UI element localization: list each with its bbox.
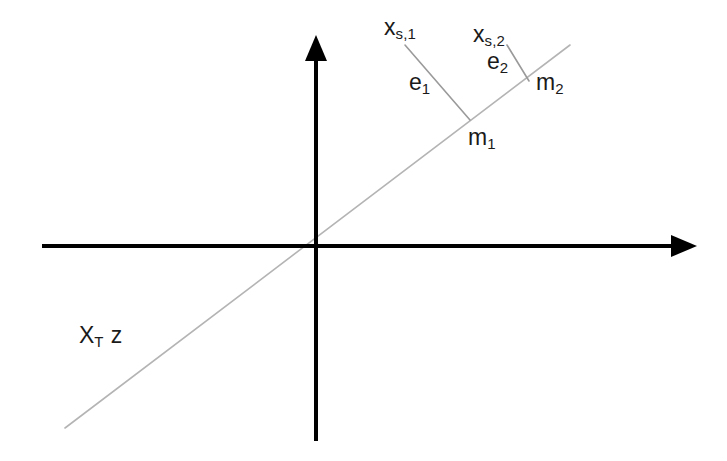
label-m2-base: m — [536, 69, 555, 95]
vertical-axis-arrowhead — [305, 35, 327, 61]
label-projection-foot-1: m1 — [468, 126, 496, 151]
label-e2-sub: 2 — [500, 59, 509, 76]
label-xtz-base1: X — [79, 322, 94, 348]
label-e2-base: e — [487, 48, 500, 74]
label-xs2-base: x — [473, 21, 485, 47]
label-source-point-1: xs,1 — [384, 16, 416, 41]
label-xs1-base: x — [384, 14, 396, 40]
label-m1-sub: 1 — [487, 135, 496, 152]
label-e1-sub: 1 — [422, 80, 431, 97]
residual-segment-e2 — [507, 45, 529, 81]
label-residual-2: e2 — [487, 50, 508, 75]
label-m2-sub: 2 — [555, 80, 564, 97]
label-xtz-sub1: T — [94, 333, 103, 350]
label-m1-base: m — [468, 124, 487, 150]
horizontal-axis-arrowhead — [671, 235, 697, 257]
label-source-point-2: xs,2 — [473, 23, 505, 48]
diagram-figure — [0, 0, 727, 461]
label-subspace-line: XTz — [79, 324, 122, 349]
label-residual-1: e1 — [409, 71, 430, 96]
label-xtz-base2: z — [111, 322, 123, 348]
diagram-canvas: xs,1 xs,2 e1 e2 m1 m2 XTz — [0, 0, 727, 461]
label-xs2-sub: s,2 — [485, 32, 506, 49]
label-projection-foot-2: m2 — [536, 71, 564, 96]
label-xs1-sub: s,1 — [396, 25, 417, 42]
label-e1-base: e — [409, 69, 422, 95]
